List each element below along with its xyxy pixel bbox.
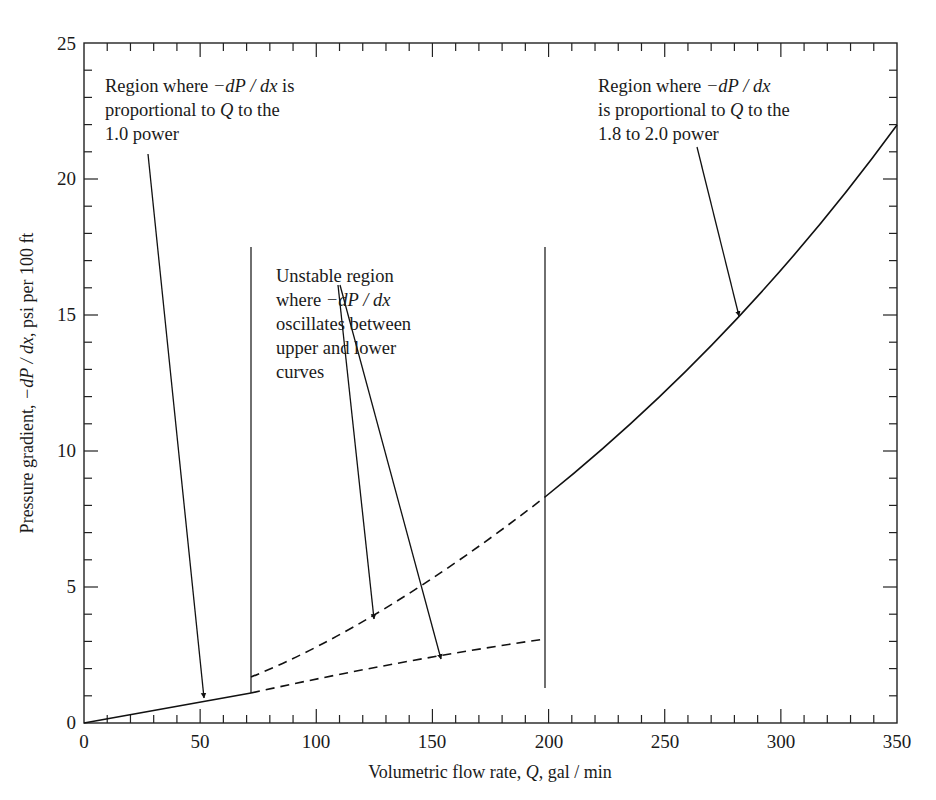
svg-text:oscillates between: oscillates between [276, 314, 411, 334]
x-tick-label: 250 [651, 731, 680, 752]
arrow-turbulent [697, 147, 739, 316]
annotation-turbulent: Region where −dP / dx is proportional to… [598, 76, 790, 144]
y-tick-label: 15 [57, 304, 76, 325]
svg-text:Region where −dP / dx: Region where −dP / dx [598, 76, 771, 96]
turbulent-curve [545, 125, 897, 497]
svg-text:Unstable region: Unstable region [276, 266, 394, 286]
svg-text:proportional to Q to the: proportional to Q to the [105, 100, 280, 120]
y-tick-label: 10 [57, 440, 76, 461]
unstable-lower-curve [251, 639, 545, 693]
x-tick-label: 100 [302, 731, 331, 752]
svg-text:upper and lower: upper and lower [276, 338, 396, 358]
svg-text:1.0 power: 1.0 power [105, 124, 179, 144]
x-tick-label: 50 [191, 731, 210, 752]
svg-text:where −dP / dx: where −dP / dx [276, 290, 391, 310]
unstable-upper-curve [251, 497, 545, 677]
arrow-unstable-upper [338, 285, 374, 619]
x-tick-label: 300 [767, 731, 796, 752]
annotation-unstable: Unstable region where −dP / dx oscillate… [276, 266, 411, 382]
chart-canvas: 0 50 100 150 200 250 300 350 0 5 10 15 2… [0, 0, 936, 800]
annotation-laminar: Region where −dP / dx is proportional to… [105, 76, 294, 144]
axis-ticks [84, 43, 897, 723]
laminar-curve [84, 693, 251, 723]
svg-text:curves: curves [276, 362, 324, 382]
y-axis-title: Pressure gradient, −dP / dx, psi per 100… [17, 233, 37, 534]
y-tick-label: 0 [67, 712, 77, 733]
y-tick-label: 25 [57, 33, 76, 54]
x-tick-labels: 0 50 100 150 200 250 300 350 [79, 731, 911, 752]
x-axis-title: Volumetric flow rate, Q, gal / min [368, 762, 612, 782]
plot-frame [84, 43, 897, 723]
arrow-laminar [148, 154, 204, 698]
x-tick-label: 150 [418, 731, 447, 752]
svg-text:1.8 to 2.0 power: 1.8 to 2.0 power [598, 124, 719, 144]
x-tick-label: 200 [535, 731, 564, 752]
y-tick-label: 5 [67, 576, 77, 597]
svg-text:is proportional to Q to the: is proportional to Q to the [598, 100, 790, 120]
y-tick-label: 20 [57, 168, 76, 189]
svg-text:Region where −dP / dx is: Region where −dP / dx is [105, 76, 294, 96]
y-tick-labels: 0 5 10 15 20 25 [57, 33, 76, 733]
x-tick-label: 350 [883, 731, 912, 752]
x-tick-label: 0 [79, 731, 89, 752]
